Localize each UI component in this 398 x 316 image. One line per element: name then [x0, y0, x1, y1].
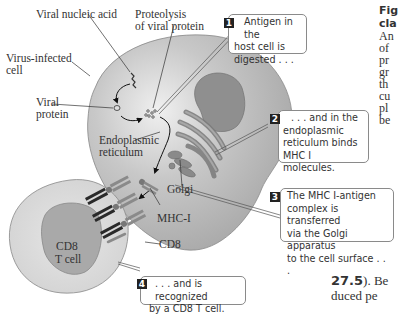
figure-caption-line-10: be: [379, 114, 390, 127]
label-er-1: Endoplasmic: [99, 134, 159, 146]
figure-reference: 27.5: [331, 273, 363, 288]
label-mhc1: MHC-I: [157, 212, 191, 224]
viral-protein-shape: [114, 106, 120, 111]
label-proteolysis-2: of viral protein: [135, 20, 204, 32]
callout-3-line-3: via the Golgi apparatus: [287, 228, 389, 253]
callout-4-line-2: by a CD8 T cell.: [149, 303, 241, 316]
label-golgi: Golgi: [167, 183, 193, 195]
callout-3-line-2: complex is transferred: [287, 203, 389, 228]
label-er-2: reticulum: [99, 146, 143, 158]
body-text-line-1: 27.5). Be: [331, 274, 388, 287]
callout-4-line-1: . . . and is recognized: [155, 278, 241, 303]
callout-4: 4 . . . and is recognized by a CD8 T cel…: [140, 276, 246, 305]
body-text-line-1-rest: ). Be: [363, 273, 388, 288]
figure-caption-title-1: Fig: [379, 4, 398, 17]
label-tcell-1: CD8: [56, 240, 78, 252]
label-viral-nucleic-acid: Viral nucleic acid: [36, 8, 117, 20]
callout-1-line-2: host cell is: [234, 41, 302, 54]
label-viral-protein-1: Viral: [36, 96, 59, 108]
callout-2-line-2: endoplasmic: [283, 125, 364, 138]
callout-3: 3 The MHC I-antigen complex is transferr…: [280, 188, 394, 242]
label-cd8: CD8: [159, 238, 181, 250]
callout-2-line-3: reticulum binds: [283, 137, 364, 150]
callout-1-line-1: Antigen in the: [244, 16, 302, 41]
label-virus-infected-2: cell: [6, 64, 23, 76]
callout-number-1: 1: [224, 18, 234, 28]
label-proteolysis-1: Proteolysis: [135, 8, 186, 20]
label-viral-protein-2: protein: [36, 108, 69, 120]
callout-number-3: 3: [270, 192, 280, 202]
callout-2: 2 . . . and in the endoplasmic reticulum…: [278, 110, 369, 163]
label-virus-infected-1: Virus-infected: [6, 52, 72, 64]
callout-1-line-3: digested . . .: [234, 54, 302, 67]
callout-number-2: 2: [270, 114, 280, 124]
body-text-line-2: duced pe: [331, 289, 378, 302]
callout-2-line-4: MHC I molecules.: [283, 150, 364, 175]
callout-number-4: 4: [137, 279, 147, 289]
callout-1: 1 Antigen in the host cell is digested .…: [228, 14, 307, 54]
callout-3-line-1: The MHC I-antigen: [287, 190, 389, 203]
label-tcell-2: T cell: [55, 253, 81, 265]
callout-2-line-1: . . . and in the: [291, 112, 364, 125]
